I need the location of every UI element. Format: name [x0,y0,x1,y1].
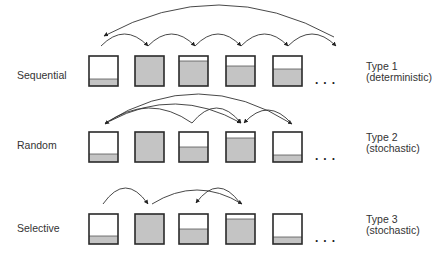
access-arrow-icon [148,34,195,46]
memory-block [226,132,255,162]
fill-level [179,229,208,244]
memory-block [273,132,302,162]
fill-level [226,219,255,244]
type-subtitle: (stochastic) [366,225,420,236]
memory-block [273,56,302,86]
fill-level [273,69,302,86]
memory-block [135,132,164,162]
access-arrow-icon [105,94,292,124]
fill-level [135,214,164,244]
access-arrow-icon [244,110,292,124]
fill-level [89,236,118,244]
access-arrow-icon [192,108,241,123]
memory-block [179,214,208,244]
type-label-selective: Type 3 (stochastic) [366,214,420,236]
fill-level [179,147,208,162]
memory-block [89,214,118,244]
access-arrow-icon [241,34,288,46]
access-arrow-icon [104,5,334,37]
memory-block [135,56,164,86]
memory-block [179,132,208,162]
memory-block [135,214,164,244]
memory-block [179,56,208,86]
memory-block [226,56,255,86]
fill-level [273,155,302,162]
memory-block [226,214,255,244]
fill-level [135,56,164,86]
fill-level [273,237,302,244]
row-label-selective: Selective [17,222,60,234]
row-label-random: Random [17,139,57,151]
row-label-sequential: Sequential [17,69,67,81]
access-arrow-icon [101,34,148,46]
access-arrow-icon [195,34,241,46]
fill-level [89,154,118,162]
type-label-random: Type 2 (stochastic) [366,132,420,154]
ellipsis-random: ... [315,149,340,163]
type-label-sequential: Type 1 (deterministic) [366,61,432,83]
row-selective [89,214,302,244]
memory-block [89,132,118,162]
fill-level [226,66,255,86]
ellipsis-selective: ... [315,231,340,245]
memory-block [273,214,302,244]
memory-block [89,56,118,86]
row-random [89,132,302,162]
fill-level [89,79,118,86]
type-subtitle: (deterministic) [366,72,432,83]
row-sequential [89,56,302,86]
fill-level [135,132,164,162]
type-subtitle: (stochastic) [366,143,420,154]
access-arrow-icon [288,34,336,46]
access-arrow-icon [105,108,192,124]
fill-level [226,138,255,162]
ellipsis-sequential: ... [315,73,340,87]
access-arrow-icon [103,188,148,204]
fill-level [179,61,208,86]
